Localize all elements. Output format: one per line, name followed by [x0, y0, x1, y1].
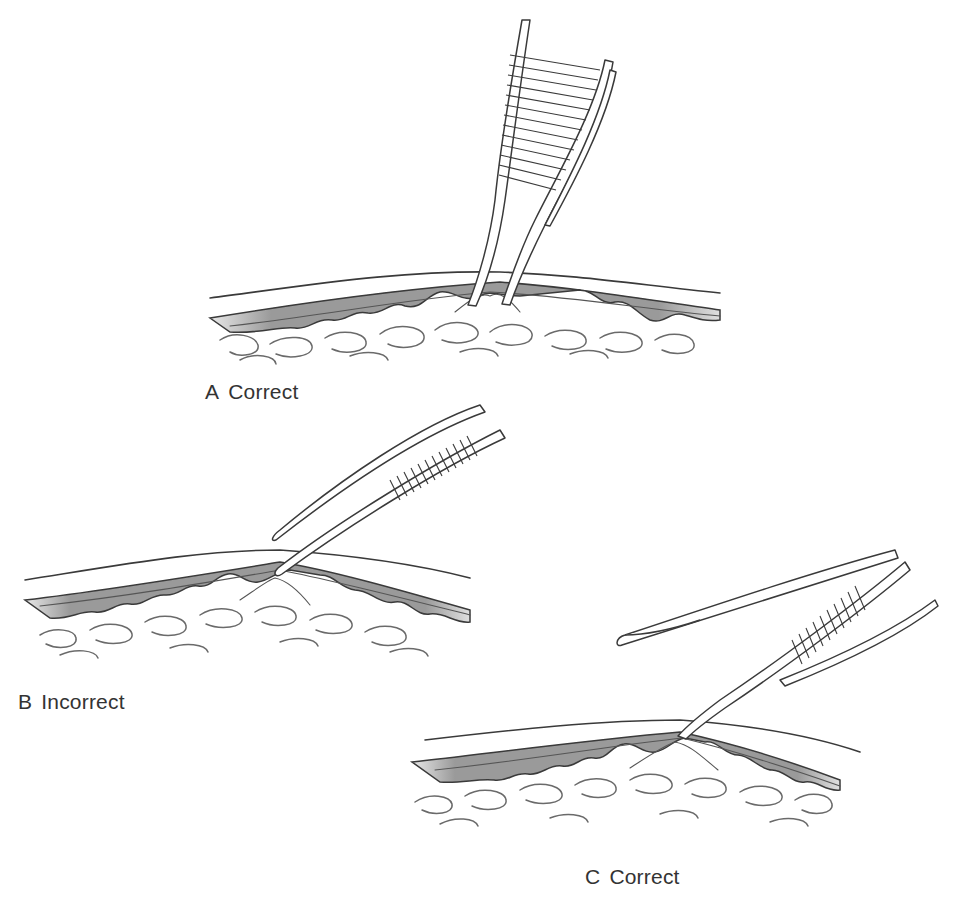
panel-c-illustration	[400, 540, 954, 860]
panel-c-label: Correct	[609, 865, 679, 888]
skin-hook	[617, 550, 898, 646]
forceps-c	[678, 562, 938, 739]
panel-b-label: Incorrect	[41, 690, 125, 713]
panel-a-illustration	[200, 0, 740, 370]
forceps-a	[468, 20, 616, 306]
dermis-layer	[412, 732, 840, 790]
panel-c-caption: CCorrect	[585, 865, 680, 889]
panel-c-letter: C	[585, 865, 600, 888]
panel-b-caption: BIncorrect	[18, 690, 125, 714]
panel-c: CCorrect	[400, 540, 954, 899]
fat-lobules	[415, 774, 832, 826]
panel-a: ACorrect	[200, 0, 740, 410]
panel-b-letter: B	[18, 690, 32, 713]
fat-lobules	[220, 323, 694, 364]
fat-lobules	[40, 606, 428, 658]
